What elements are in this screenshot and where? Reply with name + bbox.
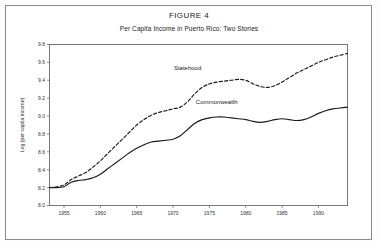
y-tick-label: 9.6: [38, 59, 45, 65]
x-tick-label: 1965: [131, 210, 142, 216]
y-tick-label: 9.0: [38, 113, 45, 119]
y-axis-title: Log (per capita income): [19, 97, 25, 152]
x-tick-label: 1955: [58, 210, 69, 216]
figure-container: FIGURE 4 Per Capita Income in Puerto Ric…: [0, 0, 378, 246]
x-tick-label: 1975: [204, 210, 215, 216]
x-tick-label: 1980: [240, 210, 251, 216]
x-axis-ticks: 19551960196519701975198019851990: [58, 206, 324, 216]
x-tick-label: 1960: [95, 210, 106, 216]
y-tick-label: 8.0: [38, 202, 45, 208]
y-tick-label: 9.8: [38, 41, 45, 47]
y-tick-label: 8.2: [38, 185, 45, 191]
y-tick-label: 8.4: [38, 167, 45, 173]
y-axis-ticks: 8.08.28.48.68.89.09.29.49.69.8: [38, 41, 49, 208]
series-label-statehood: Statehood: [174, 65, 201, 71]
y-tick-label: 8.8: [38, 131, 45, 137]
x-tick-label: 1985: [277, 210, 288, 216]
x-tick-label: 1990: [313, 210, 324, 216]
y-tick-label: 9.4: [38, 77, 45, 83]
x-tick-label: 1970: [167, 210, 178, 216]
y-tick-label: 9.2: [38, 95, 45, 101]
series-label-commonwealth: Commonwealth: [196, 99, 238, 105]
line-chart: 8.08.28.48.68.89.09.29.49.69.8 195519601…: [0, 0, 378, 246]
y-tick-label: 8.6: [38, 149, 45, 155]
